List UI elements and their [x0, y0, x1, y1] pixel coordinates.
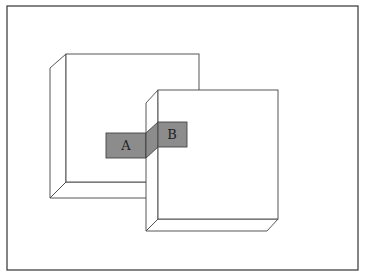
left-panel-side-face — [50, 54, 66, 198]
diagram-canvas: A B — [0, 0, 365, 277]
right-panel-side-face — [146, 90, 158, 231]
right-panel — [146, 90, 278, 231]
label-b: B — [167, 127, 177, 142]
label-a: A — [120, 138, 131, 153]
right-panel-bottom-face — [146, 219, 278, 231]
right-panel-face — [158, 90, 278, 219]
